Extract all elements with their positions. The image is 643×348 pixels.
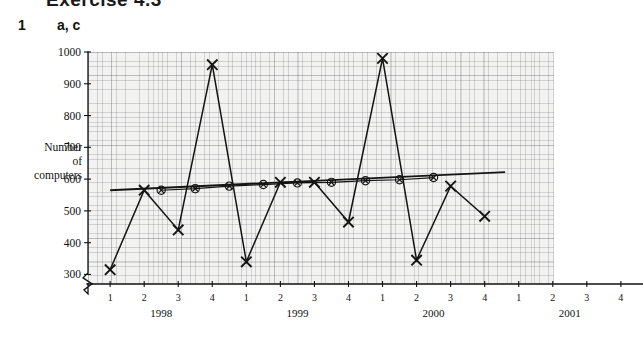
x-quarter-label: 2 — [278, 292, 283, 303]
chart-page: Exercise 4.3 1 a, c Number of computers … — [0, 0, 643, 348]
x-quarter-label: 4 — [346, 292, 351, 303]
moving-average-line — [161, 178, 433, 191]
x-quarter-label: 4 — [618, 292, 623, 303]
x-quarter-label: 1 — [380, 292, 385, 303]
chart-vector-layer: 3004005006007008009001000 12341234123412… — [0, 0, 643, 348]
x-year-label: 1998 — [150, 307, 173, 319]
x-quarter-label: 3 — [176, 292, 181, 303]
y-tick-label: 400 — [64, 237, 82, 249]
quarterly-series-markers — [105, 53, 490, 275]
x-year-label: 2001 — [559, 307, 581, 319]
x-quarter-label: 4 — [210, 292, 215, 303]
y-tick-label: 600 — [64, 173, 82, 185]
x-quarter-label: 1 — [108, 292, 113, 303]
x-year-label: 1999 — [286, 307, 309, 319]
y-tick-label: 1000 — [58, 46, 81, 58]
y-tick-group: 3004005006007008009001000 — [58, 46, 91, 280]
y-tick-label: 700 — [64, 141, 82, 153]
x-quarter-label: 3 — [584, 292, 589, 303]
y-tick-label: 900 — [64, 78, 82, 90]
y-axis-line — [83, 52, 92, 294]
x-quarter-label: 3 — [312, 292, 317, 303]
x-year-label: 2000 — [423, 307, 446, 319]
x-quarter-label: 2 — [550, 292, 555, 303]
x-axis-group: 1234123412341234 1998199920002001 — [87, 281, 643, 319]
series-quarterly-group — [105, 53, 490, 275]
y-tick-label: 800 — [64, 110, 82, 122]
y-tick-label: 300 — [64, 268, 82, 280]
y-axis-group: 3004005006007008009001000 — [58, 46, 92, 294]
x-quarter-label: 2 — [142, 292, 147, 303]
x-quarter-label: 1 — [516, 292, 521, 303]
x-quarter-label: 3 — [448, 292, 453, 303]
x-year-label-group: 1998199920002001 — [150, 307, 581, 319]
quarterly-series-line — [110, 58, 485, 269]
y-tick-label: 500 — [64, 205, 82, 217]
x-quarter-label: 2 — [414, 292, 419, 303]
x-quarter-label-group: 1234123412341234 — [108, 292, 624, 303]
x-quarter-label: 4 — [482, 292, 487, 303]
x-quarter-label: 1 — [244, 292, 249, 303]
